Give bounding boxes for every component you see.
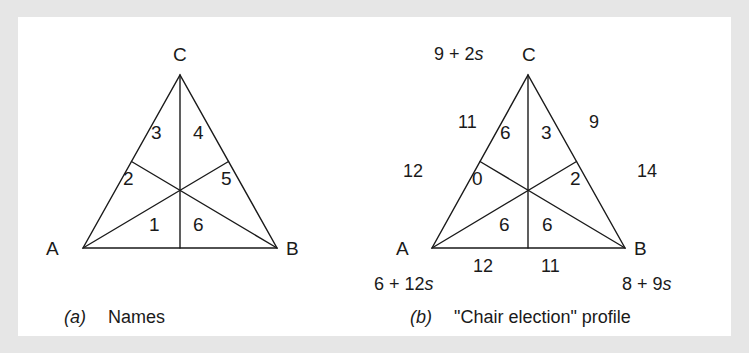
corner-total-b-text: 8 + 9s <box>622 274 672 294</box>
figure-frame: A B C 1 2 3 4 5 6 (a)Names <box>0 0 749 353</box>
vertex-label-a: A <box>46 239 59 258</box>
caption-a: (a)Names <box>64 308 165 326</box>
region-label-2: 2 <box>123 169 134 188</box>
corner-total-a: 6 + 12s <box>374 275 434 293</box>
edge-value-right-upper: 9 <box>589 113 599 131</box>
diagram-panel-b: A B C 6 0 6 3 2 6 11 12 9 14 12 11 9 + 2… <box>374 17 731 336</box>
edge-value-right-lower: 14 <box>637 162 657 180</box>
figure-panel: A B C 1 2 3 4 5 6 (a)Names <box>18 17 731 336</box>
diagram-panel-a: A B C 1 2 3 4 5 6 (a)Names <box>18 17 374 336</box>
region-value-bottom-right: 6 <box>542 215 553 234</box>
region-label-3: 3 <box>151 123 162 142</box>
caption-a-tag: (a) <box>64 307 86 327</box>
corner-total-c: 9 + 2s <box>434 45 484 63</box>
median-a-a <box>83 162 229 249</box>
region-label-4: 4 <box>193 123 204 142</box>
edge-value-left-lower: 12 <box>403 162 423 180</box>
caption-b-tag: (b) <box>410 307 432 327</box>
vertex-label-a: A <box>396 239 409 258</box>
corner-total-b: 8 + 9s <box>622 275 672 293</box>
region-value-bottom-left: 6 <box>499 215 510 234</box>
region-value-upper-left: 0 <box>472 169 483 188</box>
edge-value-bottom-right: 11 <box>541 257 560 275</box>
vertex-label-c: C <box>173 45 187 64</box>
median-b-b <box>480 162 625 249</box>
region-label-1: 1 <box>149 215 160 234</box>
edge-value-left-upper: 11 <box>458 113 477 131</box>
caption-b: (b)"Chair election" profile <box>410 308 631 326</box>
region-value-upper-right: 2 <box>570 169 581 188</box>
median-b-a <box>132 162 278 249</box>
region-label-6: 6 <box>193 215 204 234</box>
vertex-label-b: B <box>634 239 647 258</box>
caption-b-text: "Chair election" profile <box>454 307 631 327</box>
vertex-label-c: C <box>522 45 536 64</box>
region-label-5: 5 <box>221 169 232 188</box>
corner-total-c-text: 9 + 2s <box>434 44 484 64</box>
caption-a-text: Names <box>108 307 165 327</box>
region-value-top-left: 6 <box>500 123 511 142</box>
median-a-b <box>432 162 577 249</box>
triangle-diagram-a <box>18 17 374 307</box>
region-value-top-right: 3 <box>541 123 552 142</box>
corner-total-a-text: 6 + 12s <box>374 274 434 294</box>
edge-value-bottom-left: 12 <box>473 257 493 275</box>
vertex-label-b: B <box>286 239 299 258</box>
